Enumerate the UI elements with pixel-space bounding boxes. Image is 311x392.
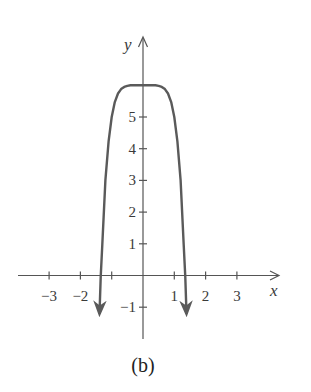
x-tick-label: 2 <box>202 288 210 304</box>
y-tick-label: −1 <box>120 299 136 315</box>
y-tick-label: 2 <box>129 204 137 220</box>
y-axis-label: y <box>122 35 132 54</box>
y-tick-label: 3 <box>129 172 137 188</box>
x-tick-label: 1 <box>171 288 179 304</box>
x-tick-label: −3 <box>41 288 57 304</box>
y-tick-label: 5 <box>129 109 137 125</box>
ticks: −3−2123−112345 <box>41 109 241 315</box>
x-axis-label: x <box>269 281 278 300</box>
x-tick-label: −2 <box>72 288 88 304</box>
figure-caption: (b) <box>131 354 154 377</box>
y-tick-label: 1 <box>129 236 137 252</box>
function-graph: −3−2123−112345 x y (b) <box>0 0 311 392</box>
y-tick-label: 4 <box>129 141 137 157</box>
x-tick-label: 3 <box>233 288 241 304</box>
